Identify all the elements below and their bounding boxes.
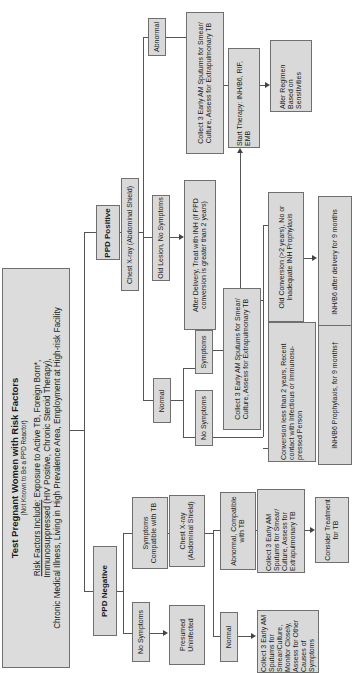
negative-normal-box: Normal — [220, 612, 238, 662]
positive-chest-xray-label: Chest X-ray (Abdominal Shield) — [126, 180, 134, 290]
inh-prophylaxis-box: INH/B6 Prophylaxis, for 9 months† — [318, 325, 352, 465]
presumed-uninfected-box: Presumed Uninfected — [169, 605, 205, 665]
old-lesion-label: Old Lesion, No Symptoms — [157, 196, 165, 280]
connector — [123, 533, 132, 534]
arrow-icon — [251, 633, 256, 639]
root-box-test-pregnant-women: Test Pregnant Women with Risk Factors (N… — [2, 268, 70, 668]
connector — [183, 368, 195, 369]
after-delivery-label: After Delivery, Treat with INH (if PPD c… — [192, 182, 208, 328]
recent-conversion-box: Conversion less than 2 years, Recent con… — [268, 322, 316, 462]
negative-abnormal-sputum-box: Collect 3 Early AM Sputums for Smear/ Cu… — [257, 489, 305, 573]
connector — [213, 636, 220, 637]
positive-normal-label: Normal — [158, 380, 166, 422]
connector — [213, 350, 223, 351]
connector — [166, 37, 186, 38]
connector — [123, 633, 132, 634]
connector — [183, 368, 184, 437]
connector — [183, 437, 195, 438]
consider-treatment-label: Consider Treatment for TB — [324, 499, 340, 561]
negative-normal-label: Normal — [225, 613, 233, 661]
old-conversion-label: Old Conversion (>2 years), No or Inadequ… — [278, 194, 294, 320]
risk-factors-label: Risk Factors Include: — [33, 500, 42, 576]
connector — [150, 633, 163, 634]
negative-symptoms-compatible-box: Symptoms Compatible with TB — [132, 497, 168, 569]
connector — [84, 591, 93, 592]
negative-no-symptoms-box: No Symptoms — [132, 602, 150, 662]
connector — [143, 237, 152, 238]
connector — [213, 437, 263, 438]
risk-factors-line1: Exposure to Active TB, Foreign Born*, — [33, 360, 42, 500]
positive-abnormal-sputum-box: Collect 3 Early AM Sputums for Smear/ Cu… — [186, 12, 224, 154]
start-therapy-label: Start Therapy: INH/B6, RIF, EMB — [236, 50, 252, 146]
positive-symptoms-box: Symptoms — [195, 330, 213, 374]
connector — [213, 530, 220, 531]
negative-abnormal-sputum-label: Collect 3 Early AM Sputums for Smear/ Cu… — [265, 491, 297, 571]
risk-factors-line2: Immunosuppressed (HIV Positive, Chronic … — [43, 358, 52, 578]
recent-conversion-label: Conversion less than 2 years, Recent con… — [280, 324, 304, 460]
connector — [213, 530, 214, 636]
connector — [70, 430, 84, 431]
connector — [84, 232, 85, 592]
alter-regimen-label: Alter Regimen Based on Sensitivities — [279, 43, 303, 109]
negative-abnormal-compatible-label: Abnormal, Compatible with TB — [230, 494, 246, 568]
connector — [238, 636, 251, 637]
positive-abnormal-sputum-label: Collect 3 Early AM Sputums for Smear/ Cu… — [197, 14, 213, 152]
old-lesion-box: Old Lesion, No Symptoms — [152, 195, 170, 281]
inh-after-delivery-box: INH/B6 after delivery for 9 months — [318, 196, 352, 328]
after-delivery-box: After Delivery, Treat with INH (if PPD c… — [184, 180, 216, 330]
negative-chest-xray-label: Chest X-ray (Abdominal Shield) — [179, 497, 195, 565]
positive-abnormal-label: Abnormal — [153, 19, 161, 55]
connector — [304, 258, 312, 259]
connector — [143, 37, 144, 400]
arrow-icon — [312, 255, 317, 261]
diagram-title: Test Pregnant Women with Risk Factors — [9, 272, 20, 664]
connector — [171, 400, 183, 401]
arrow-icon — [237, 148, 243, 153]
positive-symptoms-label: Symptoms — [200, 331, 208, 373]
positive-abnormal-box: Abnormal — [148, 18, 166, 56]
diagram-subtitle: (Not Known to Be a PPD Reactor) — [20, 272, 27, 664]
positive-chest-xray-box: Chest X-ray (Abdominal Shield) — [121, 178, 139, 291]
connector — [240, 152, 241, 288]
connector — [205, 533, 213, 534]
connector — [143, 400, 153, 401]
connector — [263, 225, 264, 437]
inh-after-delivery-label: INH/B6 after delivery for 9 months — [331, 199, 339, 325]
consider-treatment-box: Consider Treatment for TB — [315, 497, 349, 563]
negative-no-symptoms-label: No Symptoms — [137, 603, 145, 661]
positive-symptoms-sputum-label: Collect 3 Early AM Sputums for Smear/ Cu… — [234, 290, 250, 428]
negative-chest-xray-box: Chest X-ray (Abdominal Shield) — [169, 495, 205, 567]
positive-symptoms-sputum-box: Collect 3 Early AM Sputums for Smear/ Cu… — [223, 288, 261, 430]
positive-no-symptoms-box: No Symptoms — [195, 390, 213, 446]
arrow-icon — [163, 630, 168, 636]
negative-normal-sputum-label: Collect 3 Early AM Sputums for Smear/Cul… — [260, 612, 316, 672]
positive-normal-box: Normal — [153, 378, 171, 423]
presumed-uninfected-label: Presumed Uninfected — [179, 607, 195, 663]
positive-no-symptoms-label: No Symptoms — [200, 391, 208, 445]
negative-normal-sputum-box: Collect 3 Early AM Sputums for Smear/Cul… — [257, 610, 319, 673]
old-conversion-box: Old Conversion (>2 years), No or Inadequ… — [268, 192, 304, 322]
ppd-positive-box: PPD Positive — [96, 205, 120, 260]
risk-factors-line3: Chronic Medical Illness, Living in High … — [53, 307, 62, 629]
ppd-negative-box: PPD Negative — [93, 546, 117, 636]
negative-symptoms-compatible-label: Symptoms Compatible with TB — [142, 499, 158, 567]
connector — [170, 237, 179, 238]
start-therapy-box: Start Therapy: INH/B6, RIF, EMB — [228, 48, 260, 148]
ppd-negative-label: PPD Negative — [100, 548, 109, 634]
alter-regimen-box: Alter Regimen Based on Sensitivities — [270, 40, 312, 112]
inh-prophylaxis-label: INH/B6 Prophylaxis, for 9 months† — [331, 327, 339, 463]
ppd-positive-label: PPD Positive — [103, 207, 112, 259]
connector — [123, 533, 124, 633]
connector — [84, 232, 96, 233]
negative-abnormal-compatible-box: Abnormal, Compatible with TB — [220, 492, 256, 570]
